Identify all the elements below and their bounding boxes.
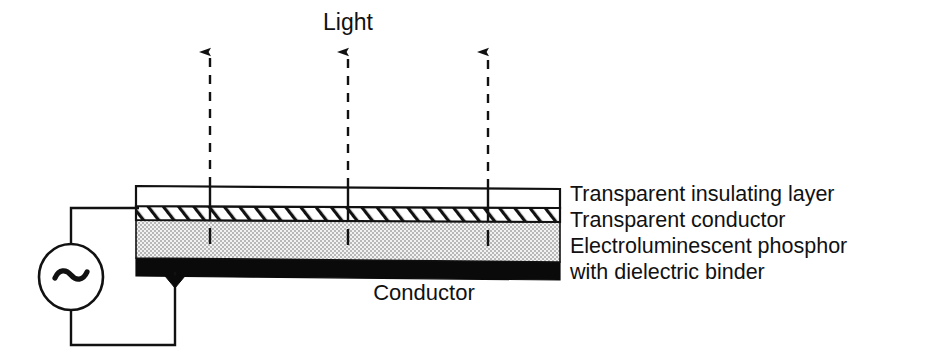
diagram-canvas: Light Conductor Transparent insulating l…	[0, 0, 933, 358]
label-dielectric-binder: with dielectric binder	[569, 260, 765, 284]
bottom-conductor-label: Conductor	[373, 280, 475, 305]
label-electroluminescent-phosphor: Electroluminescent phosphor	[570, 234, 847, 258]
contact-fillet	[165, 276, 185, 288]
wire-top	[71, 208, 139, 245]
label-transparent-insulating-layer: Transparent insulating layer	[570, 182, 835, 206]
light-rays-group	[210, 52, 488, 188]
electroluminescent-panel-diagram: Light Conductor Transparent insulating l…	[0, 0, 933, 358]
light-label: Light	[323, 9, 373, 35]
label-transparent-conductor: Transparent conductor	[570, 208, 786, 232]
